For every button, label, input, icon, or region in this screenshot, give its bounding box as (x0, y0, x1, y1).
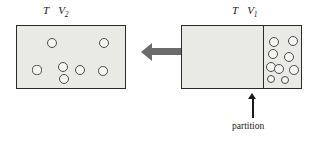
molecule (47, 38, 57, 48)
molecule (99, 38, 109, 48)
right-panel-label: TV1 (232, 5, 258, 16)
left-volume-symbol: V (58, 4, 65, 16)
right-volume-symbol: V (247, 4, 254, 16)
molecule (32, 65, 41, 74)
molecule (59, 74, 69, 84)
molecule (75, 65, 85, 75)
expansion-arrow-head-icon (141, 43, 152, 61)
molecule (284, 52, 294, 62)
partition-pointer-arrowhead-icon (248, 93, 256, 99)
partition-caption: partition (232, 122, 264, 132)
right-volume-subscript: 1 (254, 10, 258, 19)
free-expansion-diagram: TV2 TV1 partition (0, 0, 315, 142)
molecule (268, 49, 278, 59)
left-gas-container (16, 25, 126, 89)
partition-divider (263, 25, 264, 89)
molecule (98, 66, 108, 76)
partition-pointer-shaft (252, 99, 254, 118)
molecule (288, 36, 298, 46)
left-volume-subscript: 2 (65, 10, 69, 19)
right-temperature-symbol: T (232, 4, 238, 16)
molecule (289, 65, 299, 75)
molecule (269, 37, 279, 47)
left-temperature-symbol: T (43, 4, 49, 16)
left-panel-label: TV2 (43, 5, 69, 16)
